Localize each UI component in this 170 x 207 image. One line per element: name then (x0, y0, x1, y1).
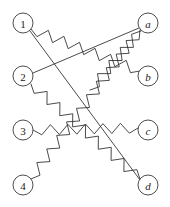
edge-2-to-d (31, 84, 140, 179)
node-4[interactable]: 4 (13, 175, 33, 195)
node-d[interactable]: d (138, 175, 158, 195)
node-3[interactable]: 3 (13, 120, 33, 140)
diagram-svg: 1234abcd (0, 0, 170, 207)
edge-2-to-a (33, 28, 139, 73)
diagram-canvas: 1234abcd (0, 0, 170, 207)
node-label-d: d (145, 180, 151, 192)
node-label-b: b (145, 71, 151, 83)
node-label-c: c (146, 125, 151, 137)
node-a[interactable]: a (138, 13, 158, 33)
node-label-1: 1 (20, 18, 26, 30)
node-label-3: 3 (20, 125, 26, 137)
node-1[interactable]: 1 (13, 13, 33, 33)
node-label-a: a (145, 18, 151, 30)
node-2[interactable]: 2 (13, 66, 33, 86)
node-b[interactable]: b (138, 66, 158, 86)
node-c[interactable]: c (138, 120, 158, 140)
node-label-2: 2 (20, 71, 26, 83)
edges-layer (30, 28, 141, 180)
node-label-4: 4 (20, 180, 26, 192)
